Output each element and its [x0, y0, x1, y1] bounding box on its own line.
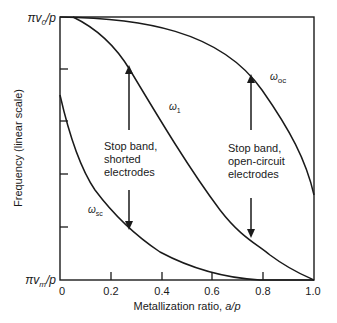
svg-text:0.6: 0.6: [204, 285, 219, 297]
svg-text:0: 0: [59, 285, 65, 297]
label-omega-sc: ωsc: [88, 204, 103, 217]
y-axis-title: Frequency (linear scale): [12, 89, 24, 207]
svg-text:shorted: shorted: [104, 153, 141, 165]
dispersion-chart: πv0/p πvm/p Frequency (linear scale) 0 0…: [0, 0, 337, 323]
svg-text:0.2: 0.2: [103, 285, 118, 297]
annotation-open-circuit: Stop band, open-circuit electrodes: [228, 142, 285, 180]
svg-text:Stop band,: Stop band,: [104, 140, 157, 152]
svg-text:electrodes: electrodes: [228, 168, 279, 180]
svg-text:0.8: 0.8: [255, 285, 270, 297]
svg-text:Stop band,: Stop band,: [228, 142, 281, 154]
svg-text:1.0: 1.0: [305, 285, 320, 297]
svg-text:electrodes: electrodes: [104, 166, 155, 178]
x-tick-labels: 0 0.2 0.4 0.6 0.8 1.0: [59, 285, 321, 297]
label-omega-oc: ωoc: [270, 71, 286, 85]
y-ticks: [60, 69, 68, 227]
y-bottom-label: πvm/p: [25, 273, 56, 289]
x-axis-title: Metallization ratio, a/p: [133, 300, 240, 312]
curve-omega-sc: [60, 95, 314, 280]
arrow-up-open: [247, 74, 255, 130]
label-omega-1: ω1: [169, 101, 181, 114]
svg-text:0.4: 0.4: [154, 285, 169, 297]
svg-text:open-circuit: open-circuit: [228, 155, 285, 167]
y-top-label: πv0/p: [27, 11, 56, 27]
arrow-down-shorted: [125, 190, 133, 230]
annotation-shorted: Stop band, shorted electrodes: [104, 140, 157, 178]
arrow-down-open: [247, 198, 255, 238]
arrow-up-shorted: [125, 65, 133, 130]
